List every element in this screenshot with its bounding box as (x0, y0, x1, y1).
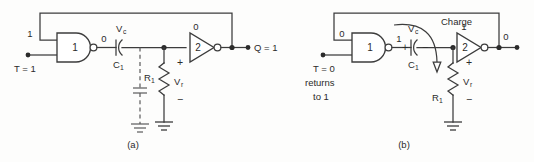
resistor-label-b: R 1 (432, 92, 443, 104)
resistor-voltage-label-b: V r (463, 76, 473, 88)
output-value-b: 0 (503, 31, 508, 42)
capacitor-voltage-label-b: V c (408, 23, 419, 35)
panel-a (26, 13, 251, 132)
inverter-output-bubble-b (481, 44, 488, 51)
capacitor-voltage-a: V (116, 23, 123, 34)
inverter-input-value-b: 1 (461, 21, 466, 32)
nand-output-bubble-b (385, 44, 392, 51)
capacitor-voltage-label-a: V c (116, 23, 127, 35)
resistor-voltage-subscript-a: r (181, 81, 184, 88)
resistor-voltage-b: V (463, 76, 470, 87)
circuit-svg: 1 T = 1 1 0 V c C 1 R 1 + V r − 0 2 Q = … (0, 0, 534, 162)
feedback-input-value-a: 1 (27, 28, 32, 39)
nand-output-bubble-a (90, 44, 97, 51)
panel-b (321, 13, 520, 130)
caption-b: (b) (398, 139, 410, 150)
feedback-input-value-b: 0 (339, 28, 344, 39)
nand-gate-label-b: 1 (367, 42, 373, 53)
resistor-subscript-a: 1 (151, 77, 155, 84)
resistor-r1-b (448, 63, 458, 95)
charge-arrow-head-b (433, 62, 441, 72)
output-label-a: Q = 1 (254, 42, 278, 53)
polarity-plus-b: + (466, 56, 472, 68)
resistor-voltage-a: V (174, 76, 181, 87)
polarity-plus-a: + (177, 56, 183, 68)
inverter-gate-label-b: 2 (462, 42, 468, 53)
capacitor-minus-b: − (422, 41, 428, 53)
resistor-voltage-subscript-b: r (470, 81, 473, 88)
output-terminal-a (246, 45, 251, 50)
inverter-output-bubble-a (214, 44, 221, 51)
capacitor-voltage-subscript-a: c (123, 28, 127, 35)
capacitor-name-b: C (408, 59, 415, 70)
input-label-a: T = 1 (14, 63, 36, 74)
resistor-name-b: R (432, 92, 439, 103)
inverter-gate-label-a: 2 (195, 42, 201, 53)
circuit-figure: 1 T = 1 1 0 V c C 1 R 1 + V r − 0 2 Q = … (0, 0, 534, 162)
polarity-minus-b: − (466, 93, 472, 105)
input-terminal-b (321, 53, 326, 58)
charge-label-b: Charge (441, 16, 472, 27)
resistor-voltage-label-a: V r (174, 76, 184, 88)
capacitor-name-a: C (113, 59, 120, 70)
capacitor-plus-b: + (402, 41, 408, 53)
output-terminal-b (515, 45, 520, 50)
output-junction-b (496, 45, 501, 50)
resistor-subscript-b: 1 (439, 97, 443, 104)
input-label-line3-b: to 1 (313, 91, 329, 102)
resistor-name-a: R (144, 72, 151, 83)
capacitor-label-b: C 1 (408, 59, 419, 71)
nand-output-value-b: 1 (396, 33, 401, 44)
input-label-line1-b: T = 0 (313, 63, 335, 74)
capacitor-voltage-b: V (408, 23, 415, 34)
capacitor-subscript-a: 1 (120, 64, 124, 71)
inverter-gate-a (190, 33, 214, 62)
input-label-line2-b: returns (305, 77, 335, 88)
inverter-input-value-a: 0 (193, 21, 198, 32)
nand-gate-label-a: 1 (72, 42, 78, 53)
capacitor-subscript-b: 1 (415, 64, 419, 71)
resistor-label-a: R 1 (144, 72, 155, 84)
capacitor-voltage-subscript-b: c (415, 28, 419, 35)
polarity-minus-a: − (177, 93, 183, 105)
input-terminal-a (26, 53, 31, 58)
capacitor-label-a: C 1 (113, 59, 124, 71)
resistor-r1-a (159, 63, 169, 95)
caption-a: (a) (127, 139, 139, 150)
output-junction-a (229, 45, 234, 50)
nand-output-value-a: 0 (101, 33, 106, 44)
